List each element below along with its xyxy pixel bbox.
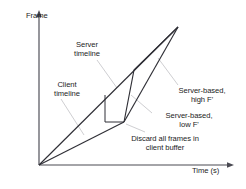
annotation-server-based-high: Server-based, high F'	[163, 86, 241, 104]
y-axis-title: Frame	[26, 11, 48, 20]
annotation-server-timeline: Server timeline	[62, 40, 112, 58]
leader-server-high	[158, 58, 178, 85]
annotation-server-based-low: Server-based, low F'	[148, 111, 230, 129]
annotation-client-timeline: Client timeline	[42, 80, 92, 98]
leader-client-timeline	[61, 99, 84, 135]
x-axis-title: Time (s)	[192, 166, 219, 175]
x-axis-arrow-icon	[227, 162, 234, 168]
leader-discard	[126, 124, 145, 132]
annotation-discard-frames: Discard all frames in client buffer	[112, 134, 218, 152]
leader-server-timeline	[97, 60, 117, 88]
